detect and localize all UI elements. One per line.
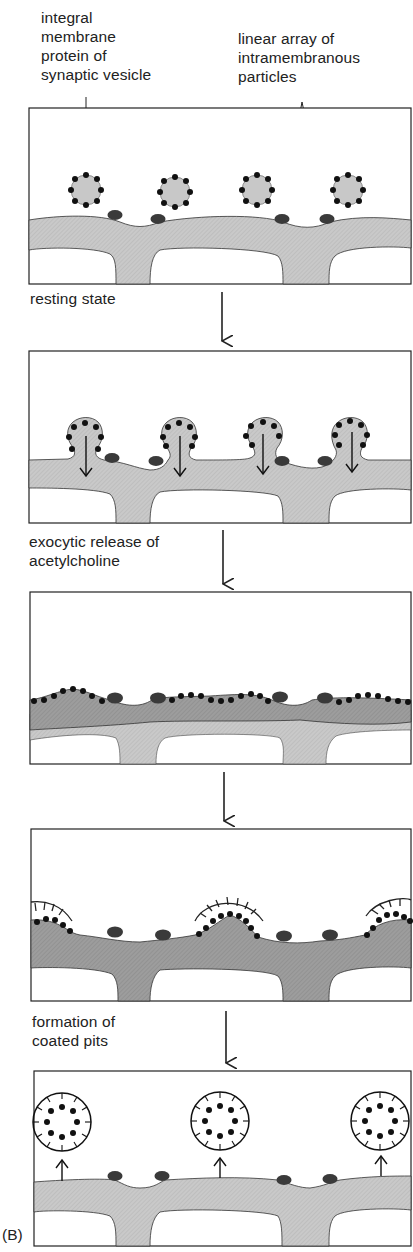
- panel-resting: [29, 108, 411, 284]
- panel-recycling: [33, 1071, 411, 1246]
- panel-coated-pits: [31, 829, 413, 1001]
- panel-fusion: [29, 351, 411, 523]
- membrane-recycling-diagram: [0, 0, 413, 1252]
- panel-release: [30, 592, 411, 764]
